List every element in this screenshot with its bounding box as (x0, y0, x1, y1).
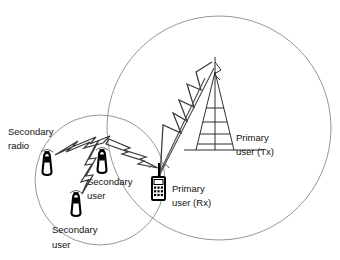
secondary-user-low-body (72, 194, 81, 216)
link-mid-to-rx (106, 139, 158, 168)
label-primary-user-rx-line2: user (Rx) (172, 197, 211, 208)
label-primary-user-tx-line2: user (Tx) (236, 146, 274, 157)
secondary-user-low-device (70, 191, 82, 217)
label-secondary-user-mid: Secondary user (87, 176, 133, 201)
primary-user-rx-device (149, 163, 169, 200)
secondary-user-mid-device (96, 148, 108, 174)
label-primary-user-rx: Primary user (Rx) (172, 183, 211, 208)
label-secondary-user-low: Secondary user (52, 224, 98, 250)
label-secondary-user-mid-line2: user (87, 190, 105, 201)
secondary-user-low-grill (74, 198, 78, 203)
label-secondary-radio: Secondary radio (8, 126, 54, 151)
secondary-radio-body (43, 153, 52, 175)
label-secondary-user-mid-line1: Secondary (87, 176, 133, 187)
secondary-radio-grill (45, 157, 49, 162)
label-secondary-radio-line2: radio (8, 140, 29, 151)
label-secondary-radio-line1: Secondary (8, 126, 54, 137)
beam-tower-to-rx-a (158, 68, 214, 178)
link-tower-to-rx (157, 62, 214, 178)
label-secondary-user-low-line1: Secondary (52, 224, 98, 235)
lightning-mid-to-rx (106, 139, 158, 168)
diagram-canvas: Secondary radio Secondary user Secondary… (0, 0, 340, 260)
secondary-user-mid-body (98, 151, 107, 173)
label-primary-user-tx: Primary user (Tx) (236, 132, 274, 157)
secondary-user-mid-grill (100, 155, 104, 160)
network-diagram: Secondary radio Secondary user Secondary… (0, 0, 340, 260)
primary-rx-phone-keypad (154, 187, 163, 197)
primary-rx-signal-arc-right (164, 165, 169, 168)
label-secondary-user-low-line2: user (52, 239, 70, 250)
secondary-radio-device (41, 150, 53, 176)
label-primary-user-rx-line1: Primary (172, 183, 205, 194)
tower-leg-right (215, 72, 234, 150)
primary-rx-phone-screen (154, 180, 163, 185)
beam-tower-to-rx-b (157, 78, 205, 178)
label-primary-user-tx-line1: Primary (236, 132, 269, 143)
primary-coverage-circle (107, 16, 331, 240)
